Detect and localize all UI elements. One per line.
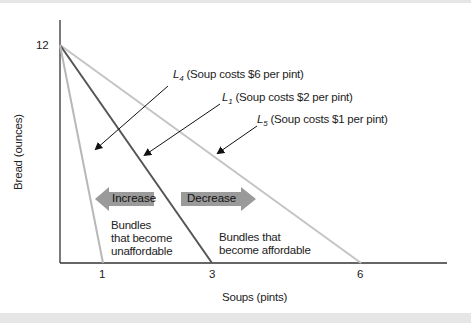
l1-sub: 1 (228, 97, 232, 106)
affordable-line2: become affordable (219, 244, 311, 256)
unaffordable-line3: unaffordable (111, 245, 172, 257)
x-tick-3: 3 (209, 268, 215, 280)
affordable-line1: Bundles that (219, 231, 281, 243)
label-l1: L1 (Soup costs $2 per pint) (222, 91, 353, 106)
label-l5: L5 (Soup costs $1 per pint) (257, 113, 388, 128)
chart-canvas (0, 0, 471, 323)
x-axis-label: Soups (pints) (222, 291, 287, 303)
l1-text: (Soup costs $2 per pint) (235, 91, 352, 103)
pointer-l1 (145, 104, 220, 155)
pointer-l4 (96, 86, 168, 149)
decrease-label: Decrease (187, 192, 236, 204)
budget-line-l4 (60, 45, 103, 263)
unaffordable-line2: that become (111, 232, 172, 244)
x-tick-6: 6 (357, 268, 363, 280)
unaffordable-line1: Bundles (111, 219, 151, 231)
bottom-border (0, 313, 471, 323)
l5-text: (Soup costs $1 per pint) (270, 113, 387, 125)
y-tick-12: 12 (36, 39, 48, 51)
increase-label: Increase (112, 192, 156, 204)
label-l4: L4 (Soup costs $6 per pint) (173, 68, 304, 83)
l5-sub: 5 (263, 119, 267, 128)
l4-sub: 4 (179, 74, 183, 83)
pointer-l5 (218, 126, 257, 153)
l4-text: (Soup costs $6 per pint) (186, 68, 303, 80)
y-axis-label: Bread (ounces) (12, 114, 24, 190)
x-tick-1: 1 (99, 268, 105, 280)
